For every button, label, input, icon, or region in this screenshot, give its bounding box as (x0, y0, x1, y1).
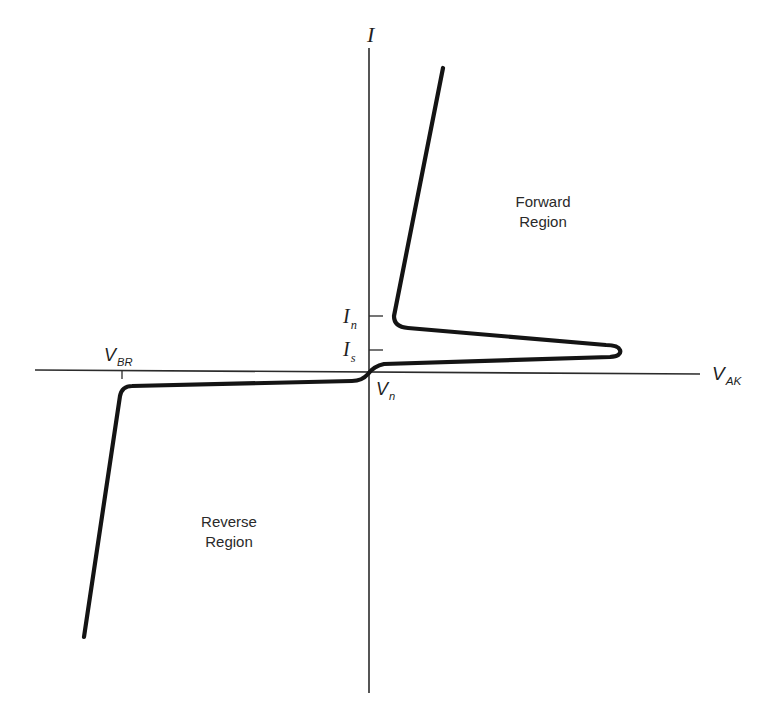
breakdown-voltage-label: VBR (104, 346, 133, 364)
y-axis-label: I (367, 24, 374, 46)
reverse-region-label: Reverse Region (184, 512, 274, 552)
switching-current-label: Is (343, 339, 356, 359)
holding-current-label: In (343, 306, 357, 326)
forward-region-label: Forward Region (498, 192, 588, 232)
knee-voltage-label: Vn (376, 380, 395, 398)
x-axis-label: VAK (712, 364, 741, 383)
